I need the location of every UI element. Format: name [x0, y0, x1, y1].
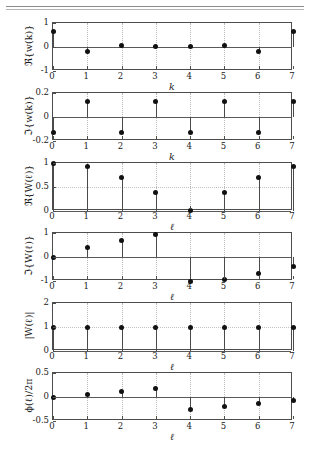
data-point: [291, 264, 296, 269]
x-tick-label: 3: [148, 72, 162, 81]
y-tick-mark: [53, 373, 56, 374]
y-tick-mark: [53, 351, 56, 352]
x-tick-label: 5: [216, 72, 230, 81]
x-tick-label: 0: [45, 352, 59, 361]
x-tick-label: 0: [45, 142, 59, 151]
x-tick-label: 0: [45, 212, 59, 221]
baseline: [53, 257, 291, 258]
data-point: [153, 325, 158, 330]
data-point: [188, 279, 193, 284]
figure-container: -10101234567kℜ{w(k)}-0.200.201234567kℑ{w…: [0, 0, 310, 449]
plot-area-1: [52, 22, 292, 70]
plot-area-6: [52, 372, 292, 420]
data-point: [119, 130, 124, 135]
data-point: [222, 99, 227, 104]
data-point: [291, 325, 296, 330]
x-tick-label: 0: [45, 422, 59, 431]
x-tick-mark: [190, 66, 191, 69]
x-tick-mark: [53, 206, 54, 209]
x-tick-label: 1: [79, 142, 93, 151]
y-axis-label: ℑ{w(k)}: [23, 81, 34, 151]
x-tick-mark: [224, 416, 225, 419]
x-tick-label: 7: [285, 352, 299, 361]
y-tick-mark: [53, 163, 56, 164]
x-tick-label: 2: [114, 212, 128, 221]
data-point: [153, 99, 158, 104]
data-point: [188, 130, 193, 135]
x-tick-mark: [122, 66, 123, 69]
baseline: [53, 397, 291, 398]
x-tick-mark: [293, 136, 294, 139]
x-tick-label: 3: [148, 422, 162, 431]
gridline-vertical: [259, 373, 260, 419]
data-point: [119, 389, 124, 394]
x-tick-mark: [293, 206, 294, 209]
plot-area-3: [52, 162, 292, 210]
x-tick-label: 1: [79, 212, 93, 221]
plot-area-4: [52, 232, 292, 280]
x-tick-label: 3: [148, 142, 162, 151]
data-point: [51, 130, 56, 135]
x-tick-label: 2: [114, 282, 128, 291]
x-tick-mark: [190, 206, 191, 209]
x-tick-mark: [122, 136, 123, 139]
header-rule-bottom: [6, 9, 304, 10]
x-tick-mark: [53, 66, 54, 69]
x-tick-label: 7: [285, 282, 299, 291]
baseline: [53, 117, 291, 118]
y-tick-mark: [53, 303, 56, 304]
data-point: [291, 164, 296, 169]
x-tick-label: 0: [45, 282, 59, 291]
data-point: [85, 49, 90, 54]
data-point: [188, 44, 193, 49]
x-tick-mark: [156, 136, 157, 139]
y-tick-mark: [53, 93, 56, 94]
y-tick-mark: [53, 211, 56, 212]
x-tick-mark: [87, 276, 88, 279]
x-tick-mark: [259, 416, 260, 419]
x-tick-mark: [224, 136, 225, 139]
x-tick-mark: [293, 66, 294, 69]
x-tick-mark: [87, 346, 88, 349]
header-rule-top: [6, 6, 304, 7]
data-point: [256, 401, 261, 406]
data-point: [222, 190, 227, 195]
x-tick-label: 4: [182, 142, 196, 151]
gridline-vertical: [259, 23, 260, 69]
gridline-horizontal: [53, 187, 291, 188]
x-tick-mark: [259, 66, 260, 69]
x-tick-label: 1: [79, 282, 93, 291]
y-tick-mark: [53, 117, 56, 118]
x-tick-label: 4: [182, 422, 196, 431]
x-tick-mark: [53, 276, 54, 279]
data-point: [256, 49, 261, 54]
x-tick-label: 6: [251, 422, 265, 431]
data-point: [85, 99, 90, 104]
data-point: [291, 29, 296, 34]
x-tick-mark: [224, 206, 225, 209]
x-tick-label: 7: [285, 212, 299, 221]
x-tick-mark: [156, 416, 157, 419]
x-tick-label: 1: [79, 72, 93, 81]
data-point: [153, 232, 158, 237]
x-tick-mark: [293, 346, 294, 349]
gridline-vertical: [190, 163, 191, 209]
x-tick-label: 5: [216, 142, 230, 151]
x-tick-label: 7: [285, 142, 299, 151]
x-tick-mark: [87, 66, 88, 69]
x-tick-mark: [190, 276, 191, 279]
x-tick-label: 5: [216, 212, 230, 221]
x-tick-label: 1: [79, 422, 93, 431]
x-tick-label: 4: [182, 72, 196, 81]
data-point: [222, 404, 227, 409]
data-point: [188, 325, 193, 330]
x-tick-mark: [293, 416, 294, 419]
x-tick-label: 7: [285, 72, 299, 81]
stem-line: [293, 167, 294, 211]
data-point: [153, 44, 158, 49]
data-point: [222, 325, 227, 330]
x-tick-mark: [87, 136, 88, 139]
x-tick-label: 6: [251, 352, 265, 361]
y-axis-label: ℑ{W(ℓ)}: [23, 221, 34, 291]
x-tick-label: 0: [45, 72, 59, 81]
